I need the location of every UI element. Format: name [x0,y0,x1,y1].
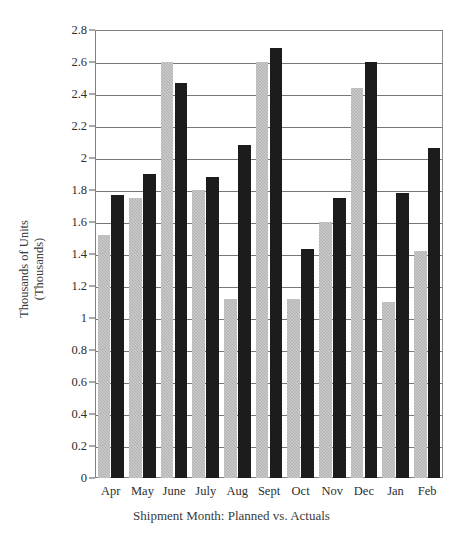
x-axis-tick-label: July [195,484,216,499]
x-axis-tick-label: June [163,484,186,499]
x-axis-title: Shipment Month: Planned vs. Actuals [0,508,463,524]
y-axis-tick-label: 0.4 [71,407,87,422]
y-axis-tick-label: 2.8 [71,23,87,38]
y-axis-tick-label: 1 [81,311,87,326]
y-axis-tick-label: 1.8 [71,183,87,198]
bar-planned [224,299,237,478]
bar-actual [238,145,251,478]
bar-planned [129,198,142,478]
x-axis-tick-label: Sept [258,484,280,499]
y-axis-tick-label: 2.6 [71,55,87,70]
bar-actual [206,177,219,478]
y-axis-tick-label: 2 [81,151,87,166]
x-axis-tick-label: Oct [292,484,310,499]
bar-actual [396,193,409,478]
bar-actual [365,62,378,478]
x-axis-tick-label: Dec [354,484,374,499]
y-axis-tick-label: 2.2 [71,119,87,134]
bar-actual [270,48,283,478]
bar-actual [143,174,156,478]
bar-planned [161,62,174,478]
bar-actual [333,198,346,478]
bar-planned [351,88,364,478]
y-axis-tick-label: 1.2 [71,279,87,294]
bar-actual [301,249,314,478]
x-axis-tick-label: Nov [322,484,344,499]
bars-layer [95,30,443,478]
bar-planned [382,302,395,478]
bar-chart: Thousands of Units (Thousands) 00.20.40.… [0,0,463,547]
bar-planned [256,62,269,478]
y-axis-tick-label: 0 [81,471,87,486]
bar-planned [287,299,300,478]
y-axis-tick-label: 0.6 [71,375,87,390]
x-axis-tick-label: May [131,484,154,499]
y-axis-tick-label: 2.4 [71,87,87,102]
x-axis-tick-label: Jan [387,484,404,499]
y-axis-title: Thousands of Units (Thousands) [17,149,47,389]
y-axis-tick-label: 0.8 [71,343,87,358]
y-axis-tick-label: 1.6 [71,215,87,230]
y-axis-tick-label: 1.4 [71,247,87,262]
bar-planned [319,222,332,478]
x-axis-tick-label: Aug [227,484,249,499]
bar-planned [414,251,427,478]
bar-actual [111,195,124,478]
bar-actual [175,83,188,478]
bar-actual [428,148,441,478]
x-axis-tick-label: Feb [418,484,437,499]
bar-planned [98,235,111,478]
bar-planned [192,190,205,478]
x-axis-tick-label: Apr [101,484,120,499]
y-axis-tick-label: 0.2 [71,439,87,454]
